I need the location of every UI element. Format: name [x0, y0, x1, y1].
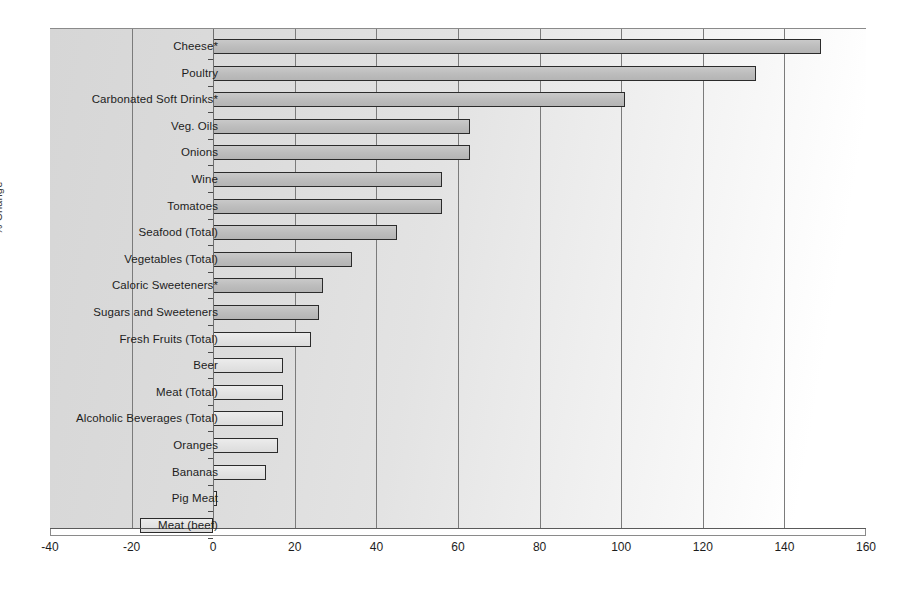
category-label: Alcoholic Beverages (Total) [76, 411, 218, 426]
category-label: Beer [193, 358, 218, 373]
category-label: Wine [191, 172, 218, 187]
category-label: Pig Meat [172, 491, 218, 506]
x-tick-label: 80 [533, 540, 546, 554]
category-label: Tomatoes [167, 199, 218, 214]
bar [213, 39, 821, 54]
bar-chart: % Change Cheese*PoultryCarbonated Soft D… [0, 0, 900, 609]
x-tick-label: 60 [451, 540, 464, 554]
bar [213, 278, 323, 293]
x-tick-label: -20 [123, 540, 140, 554]
category-labels: Cheese*PoultryCarbonated Soft Drinks*Veg… [0, 29, 222, 529]
x-tick-label: 40 [370, 540, 383, 554]
x-tick-label: 140 [774, 540, 794, 554]
grid-line-120 [703, 29, 704, 529]
category-label: Carbonated Soft Drinks* [92, 92, 218, 107]
bar [213, 305, 319, 320]
category-label: Cheese* [173, 39, 218, 54]
category-label: Veg. Oils [171, 119, 218, 134]
category-label: Bananas [172, 465, 218, 480]
bar [213, 66, 756, 81]
bar [213, 225, 397, 240]
bar [213, 385, 282, 400]
category-label: Sugars and Sweeteners [93, 305, 218, 320]
bar [213, 172, 441, 187]
category-label: Oranges [173, 438, 218, 453]
category-label: Meat (beef) [158, 518, 218, 533]
category-label: Meat (Total) [156, 385, 218, 400]
x-tick-label: -40 [41, 540, 58, 554]
x-tick-label: 160 [856, 540, 876, 554]
x-tick-label: 100 [611, 540, 631, 554]
category-label: Vegetables (Total) [124, 252, 218, 267]
x-tick-label: 120 [693, 540, 713, 554]
grid-line-140 [784, 29, 785, 529]
category-label: Fresh Fruits (Total) [120, 332, 219, 347]
bar [213, 438, 278, 453]
category-label: Poultry [182, 66, 219, 81]
bar [213, 199, 441, 214]
bar [213, 119, 470, 134]
category-label: Caloric Sweeteners* [112, 278, 218, 293]
bar [213, 358, 282, 373]
category-label: Seafood (Total) [139, 225, 219, 240]
category-label: Onions [181, 145, 218, 160]
bar [213, 411, 282, 426]
x-tick-label: 20 [288, 540, 301, 554]
bar [213, 332, 311, 347]
bar [213, 252, 352, 267]
bar [213, 145, 470, 160]
x-tick-label: 0 [210, 540, 217, 554]
axis-tick-stub [208, 538, 213, 539]
bar [213, 92, 625, 107]
